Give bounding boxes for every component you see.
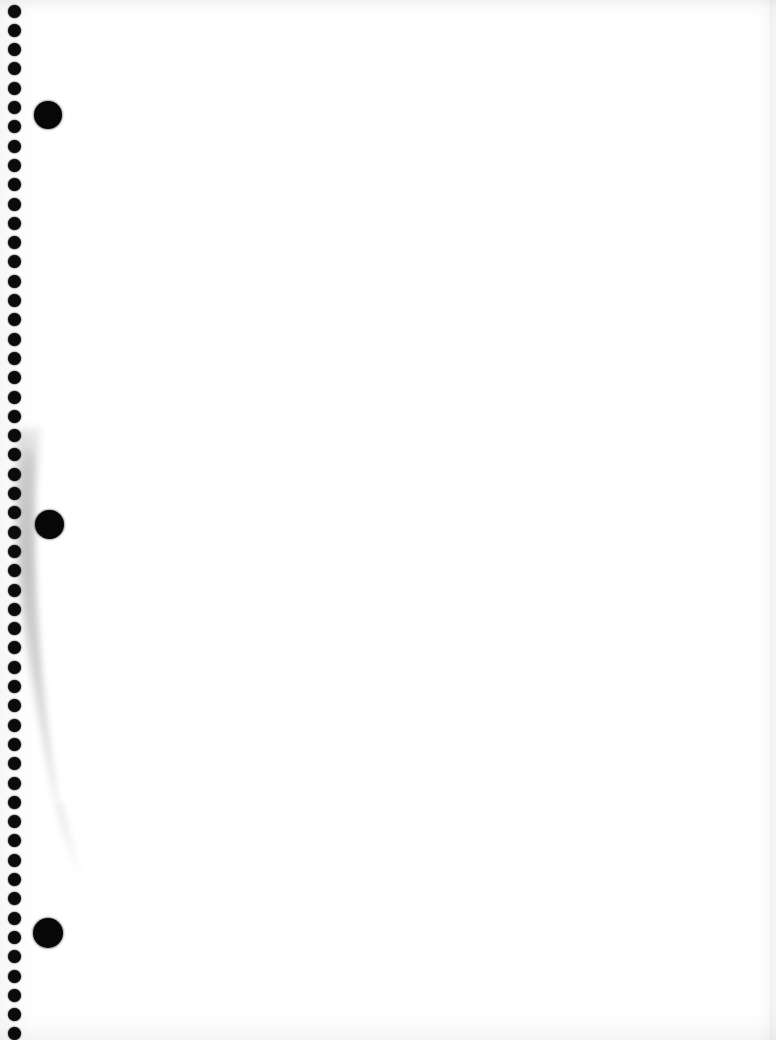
punch-hole-dot (8, 43, 21, 56)
punch-hole-dot (8, 622, 21, 635)
punch-hole-dot (8, 931, 21, 944)
punch-hole-dot (8, 873, 21, 886)
punch-hole-dot (8, 815, 21, 828)
punch-hole-dot (8, 275, 21, 288)
punch-hole-dot (8, 217, 21, 230)
punch-hole-dot (8, 1027, 21, 1040)
paper-right-edge-shadow (770, 0, 772, 1040)
punch-hole-dot (8, 24, 21, 37)
paper-surface (0, 0, 776, 1040)
large-dot-1 (34, 101, 62, 129)
punch-hole-dot (8, 159, 21, 172)
punch-hole-dot (8, 661, 21, 674)
punch-hole-dot (8, 506, 21, 519)
punch-hole-dot (8, 391, 21, 404)
punch-hole-dot (8, 719, 21, 732)
punch-hole-dot (8, 5, 21, 18)
punch-hole-dot (8, 641, 21, 654)
punch-hole-dot (8, 526, 21, 539)
punch-hole-dot (8, 487, 21, 500)
punch-hole-dot (8, 757, 21, 770)
punch-hole-dot (8, 854, 21, 867)
punch-hole-dot (8, 699, 21, 712)
punch-hole-dot (8, 777, 21, 790)
punch-hole-dot (8, 429, 21, 442)
punch-hole-dot (8, 448, 21, 461)
punch-hole-dot (8, 371, 21, 384)
punch-hole-dot (8, 313, 21, 326)
punch-hole-dot (8, 294, 21, 307)
punch-hole-dot (8, 989, 21, 1002)
punch-hole-dot (8, 545, 21, 558)
punch-hole-dot (8, 101, 21, 114)
punch-hole-dot (8, 410, 21, 423)
punch-hole-dot (8, 468, 21, 481)
punch-hole-dot (8, 950, 21, 963)
punch-hole-dot (8, 834, 21, 847)
punch-hole-dot (8, 912, 21, 925)
punch-hole-dot (8, 584, 21, 597)
punch-hole-dot (8, 82, 21, 95)
punch-hole-dot (8, 564, 21, 577)
punch-hole-dot (8, 62, 21, 75)
punch-hole-dot (8, 236, 21, 249)
punch-hole-dot (8, 738, 21, 751)
large-dot-3 (33, 918, 63, 948)
punch-hole-dot (8, 970, 21, 983)
punch-hole-dot (8, 255, 21, 268)
punch-hole-dot (8, 178, 21, 191)
punch-hole-dot (8, 120, 21, 133)
large-dot-2 (35, 510, 64, 539)
punch-hole-dot (8, 333, 21, 346)
punch-hole-dot (8, 680, 21, 693)
punch-hole-dot (8, 198, 21, 211)
punch-hole-column (0, 0, 34, 1040)
punch-hole-dot (8, 140, 21, 153)
punch-hole-dot (8, 603, 21, 616)
scanned-page (0, 0, 776, 1040)
punch-hole-dot (8, 352, 21, 365)
punch-hole-dot (8, 796, 21, 809)
punch-hole-dot (8, 892, 21, 905)
punch-hole-dot (8, 1008, 21, 1021)
